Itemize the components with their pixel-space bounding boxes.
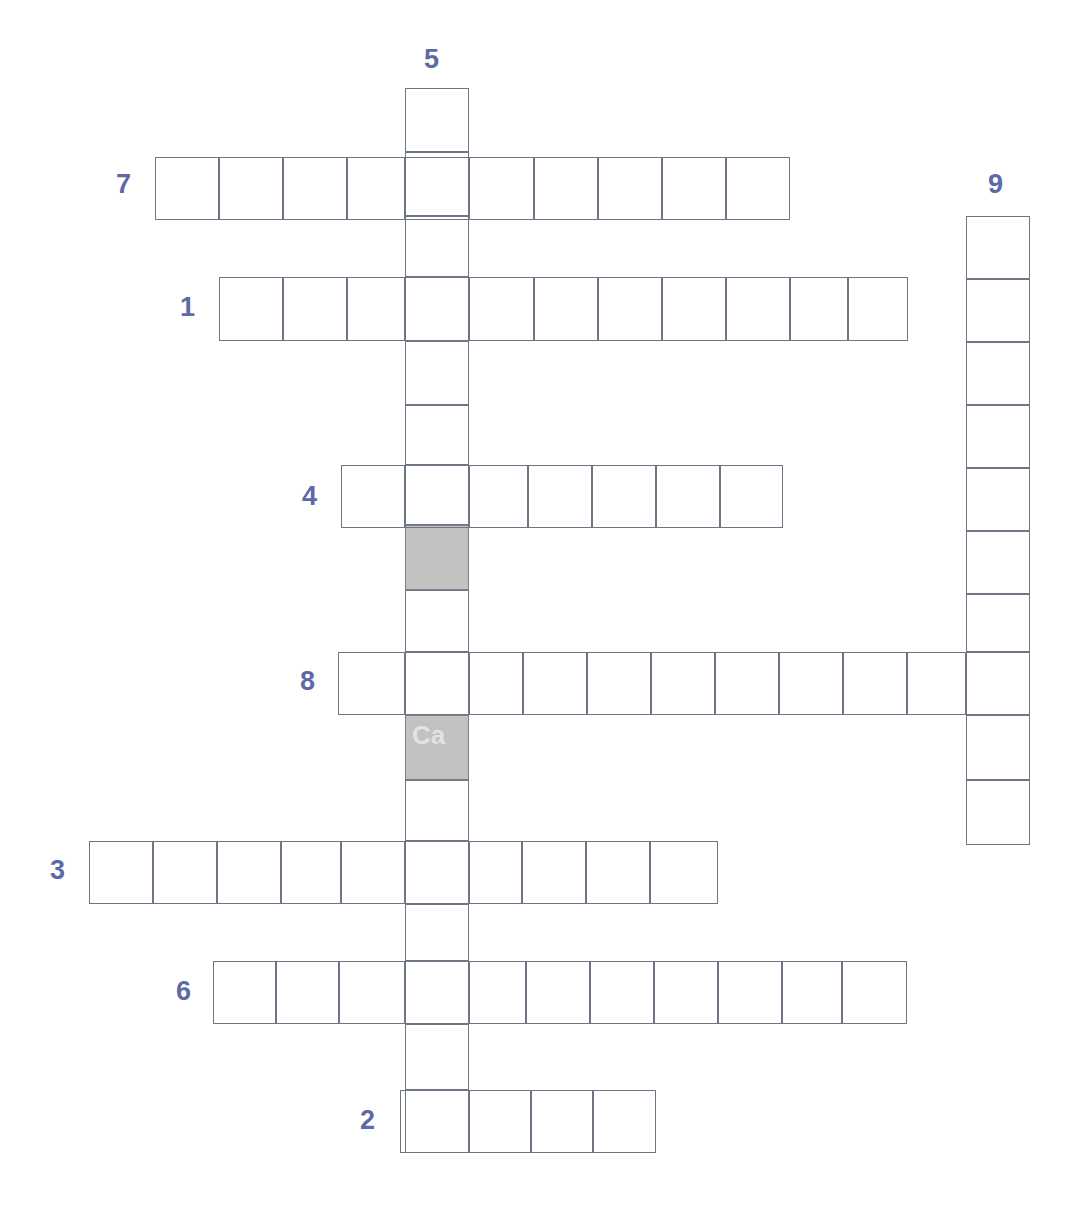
crossword-cell[interactable] (347, 277, 405, 341)
crossword-cell[interactable] (339, 961, 405, 1024)
crossword-cell[interactable] (598, 277, 662, 341)
crossword-cell[interactable] (405, 780, 469, 841)
crossword-cell[interactable] (217, 841, 281, 904)
crossword-cell[interactable] (469, 1090, 531, 1153)
crossword-cell[interactable] (651, 652, 715, 715)
crossword-cell[interactable] (790, 277, 848, 341)
crossword-cell[interactable] (531, 1090, 593, 1153)
crossword-cell[interactable] (843, 652, 907, 715)
crossword-cell[interactable] (966, 468, 1030, 531)
crossword-cell[interactable] (283, 157, 347, 220)
crossword-cell[interactable] (347, 157, 405, 220)
crossword-cell[interactable] (155, 157, 219, 220)
crossword-grid: Ca (0, 0, 1081, 1222)
clue-number-8: 8 (300, 668, 315, 695)
crossword-cell[interactable] (276, 961, 339, 1024)
crossword-cell[interactable] (469, 277, 534, 341)
crossword-cell[interactable] (907, 652, 966, 715)
crossword-cell[interactable] (528, 465, 592, 528)
crossword-cell[interactable] (590, 961, 654, 1024)
crossword-cell[interactable] (526, 961, 590, 1024)
crossword-cell[interactable] (720, 465, 783, 528)
crossword-cell[interactable] (405, 841, 469, 904)
crossword-cell[interactable] (213, 961, 276, 1024)
crossword-cell-shaded[interactable] (405, 525, 469, 590)
crossword-cell[interactable] (400, 1090, 469, 1153)
crossword-cell[interactable] (598, 157, 662, 220)
crossword-cell[interactable] (779, 652, 843, 715)
crossword-cell[interactable] (782, 961, 842, 1024)
crossword-cell[interactable] (405, 961, 469, 1024)
crossword-cell[interactable] (219, 277, 283, 341)
crossword-cell[interactable] (966, 715, 1030, 780)
crossword-cell[interactable] (405, 88, 469, 152)
crossword-cell[interactable] (966, 279, 1030, 342)
clue-number-2: 2 (360, 1107, 375, 1134)
crossword-cell[interactable] (966, 594, 1030, 652)
crossword-cell[interactable] (469, 961, 526, 1024)
clue-number-4: 4 (302, 483, 317, 510)
crossword-puzzle: Ca 579148362 (0, 0, 1081, 1222)
crossword-cell[interactable] (469, 465, 528, 528)
crossword-cell[interactable] (726, 277, 790, 341)
crossword-cell[interactable] (405, 590, 469, 652)
crossword-cell[interactable] (966, 216, 1030, 279)
crossword-cell[interactable] (650, 841, 718, 904)
crossword-cell[interactable] (654, 961, 718, 1024)
crossword-cell[interactable] (405, 216, 469, 277)
crossword-cell[interactable] (848, 277, 908, 341)
crossword-cell[interactable] (405, 1024, 469, 1090)
crossword-cell[interactable] (662, 277, 726, 341)
crossword-cell[interactable] (522, 841, 586, 904)
crossword-cell[interactable] (341, 465, 405, 528)
crossword-cell[interactable] (469, 841, 522, 904)
crossword-cell[interactable] (89, 841, 153, 904)
crossword-cell[interactable] (523, 652, 587, 715)
crossword-cell[interactable] (966, 780, 1030, 845)
crossword-cell[interactable] (587, 652, 651, 715)
crossword-cell[interactable] (966, 652, 1030, 715)
crossword-cell[interactable] (656, 465, 720, 528)
crossword-cell[interactable] (726, 157, 790, 220)
clue-number-7: 7 (116, 171, 131, 198)
crossword-cell[interactable] (405, 465, 469, 528)
crossword-cell[interactable] (405, 904, 469, 961)
crossword-cell[interactable] (338, 652, 405, 715)
clue-number-6: 6 (176, 978, 191, 1005)
crossword-cell[interactable] (283, 277, 347, 341)
crossword-cell[interactable] (469, 652, 523, 715)
crossword-cell[interactable] (842, 961, 907, 1024)
crossword-cell[interactable] (662, 157, 726, 220)
crossword-cell[interactable] (341, 841, 405, 904)
crossword-cell[interactable] (966, 531, 1030, 594)
crossword-cell[interactable] (405, 277, 469, 341)
crossword-cell[interactable] (281, 841, 341, 904)
crossword-cell[interactable] (405, 652, 469, 715)
crossword-cell[interactable] (219, 157, 283, 220)
crossword-cell[interactable] (405, 405, 469, 465)
crossword-cell[interactable] (153, 841, 217, 904)
clue-number-1: 1 (180, 294, 195, 321)
crossword-cell[interactable] (405, 341, 469, 405)
crossword-cell[interactable] (718, 961, 782, 1024)
crossword-cell[interactable] (534, 157, 598, 220)
crossword-cell[interactable] (966, 405, 1030, 468)
crossword-cell-shaded[interactable] (405, 715, 469, 780)
crossword-cell[interactable] (715, 652, 779, 715)
crossword-cell[interactable] (593, 1090, 656, 1153)
clue-number-3: 3 (50, 857, 65, 884)
clue-number-9: 9 (988, 171, 1003, 198)
crossword-cell[interactable] (592, 465, 656, 528)
crossword-cell[interactable] (405, 157, 469, 220)
clue-number-5: 5 (424, 46, 439, 73)
crossword-cell[interactable] (586, 841, 650, 904)
crossword-cell[interactable] (534, 277, 598, 341)
crossword-cell[interactable] (469, 157, 534, 220)
crossword-cell[interactable] (966, 342, 1030, 405)
